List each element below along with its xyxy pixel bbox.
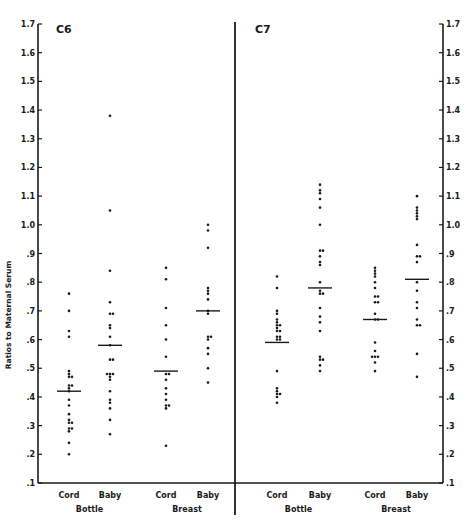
data-point	[109, 327, 112, 330]
data-point	[68, 453, 71, 456]
data-point	[416, 215, 419, 218]
data-point	[416, 307, 419, 310]
data-point	[416, 376, 419, 379]
data-point	[68, 387, 71, 390]
data-point	[419, 324, 422, 327]
data-point	[416, 281, 419, 284]
y-tick-label-left: 1.2	[21, 163, 35, 172]
data-point	[207, 229, 210, 232]
y-tick-label-right: .6	[446, 336, 455, 345]
data-point	[279, 393, 282, 396]
data-point	[319, 224, 322, 227]
data-point	[109, 209, 112, 212]
data-point	[279, 330, 282, 333]
y-tick-label-right: .2	[446, 450, 455, 459]
y-tick-label-left: .6	[26, 336, 35, 345]
data-point	[374, 267, 377, 270]
data-point	[319, 292, 322, 295]
y-tick-label-left: .3	[26, 422, 35, 431]
y-tick-label-right: 1.6	[446, 49, 461, 58]
data-point	[68, 292, 71, 295]
data-point	[319, 255, 322, 258]
data-point	[416, 255, 419, 258]
y-tick-label-right: .4	[446, 393, 455, 402]
group-label-bottle: Bottle	[76, 505, 104, 514]
y-tick-label-right: .3	[446, 422, 455, 431]
data-point	[319, 355, 322, 358]
y-tick-label-right: .5	[446, 364, 455, 373]
data-point	[68, 442, 71, 445]
data-point	[319, 330, 322, 333]
data-point	[68, 384, 71, 387]
data-point	[319, 192, 322, 195]
data-point	[374, 269, 377, 272]
y-tick-label-right: .8	[446, 278, 455, 287]
data-point	[374, 312, 377, 315]
data-point	[374, 341, 377, 344]
data-point	[109, 407, 112, 410]
y-tick-label-left: .8	[26, 278, 35, 287]
y-tick-label-left: 1.3	[21, 135, 35, 144]
data-point	[68, 413, 71, 416]
data-point	[377, 355, 380, 358]
data-point	[276, 338, 279, 341]
y-tick-label-right: .9	[446, 250, 455, 259]
data-point	[109, 269, 112, 272]
data-point	[109, 115, 112, 118]
data-point	[319, 183, 322, 186]
data-point	[276, 327, 279, 330]
data-point	[416, 212, 419, 215]
data-point	[319, 370, 322, 373]
data-point	[207, 287, 210, 290]
data-point	[168, 404, 171, 407]
dot-plot-chart: 1.71.71.61.61.51.51.41.41.31.31.21.21.11…	[0, 0, 471, 531]
data-point	[68, 430, 71, 433]
data-point	[416, 261, 419, 264]
data-point	[112, 373, 115, 376]
category-label-cord: Cord	[58, 491, 79, 500]
data-point	[207, 335, 210, 338]
panel-title-c7: C7	[255, 23, 271, 36]
data-point	[68, 421, 71, 424]
data-point	[109, 399, 112, 402]
y-tick-label-right: 1.2	[446, 163, 460, 172]
data-point	[319, 321, 322, 324]
data-point	[319, 364, 322, 367]
y-tick-label-right: 1.1	[446, 192, 461, 201]
data-point	[416, 195, 419, 198]
data-point	[71, 384, 74, 387]
category-label-baby: Baby	[406, 491, 429, 500]
data-point	[112, 358, 115, 361]
category-label-baby: Baby	[197, 491, 220, 500]
data-point	[109, 390, 112, 393]
data-point	[109, 419, 112, 422]
data-point	[322, 249, 325, 252]
data-point	[377, 301, 380, 304]
data-point	[374, 272, 377, 275]
data-point	[168, 373, 171, 376]
data-point	[165, 393, 168, 396]
data-point	[416, 353, 419, 356]
data-point	[71, 421, 74, 424]
data-point	[109, 312, 112, 315]
data-point	[276, 324, 279, 327]
data-point	[279, 335, 282, 338]
data-point	[279, 324, 282, 327]
data-point	[210, 335, 213, 338]
category-label-baby: Baby	[99, 491, 122, 500]
data-point	[207, 338, 210, 341]
data-point	[276, 393, 279, 396]
data-point	[319, 358, 322, 361]
data-point	[165, 444, 168, 447]
data-point	[322, 358, 325, 361]
data-point	[165, 378, 168, 381]
data-point	[374, 361, 377, 364]
data-point	[207, 289, 210, 292]
data-point	[68, 370, 71, 373]
data-point	[374, 275, 377, 278]
group-label-bottle: Bottle	[285, 505, 313, 514]
y-tick-label-left: .2	[26, 450, 35, 459]
data-point	[276, 310, 279, 313]
y-axis-label: Ratios to Maternal Serum	[4, 261, 13, 370]
data-point	[416, 209, 419, 212]
